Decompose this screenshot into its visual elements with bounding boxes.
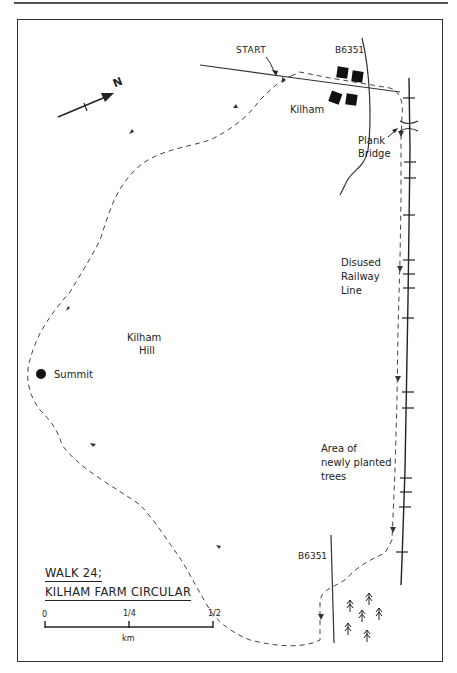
walk-title: WALK 24; xyxy=(45,566,102,582)
railway-label-3: Line xyxy=(341,284,362,297)
hill-label-2: Hill xyxy=(139,344,155,357)
scale-tick-quarter: 1/4 xyxy=(123,609,136,618)
plank-bridge-label-2: Bridge xyxy=(358,147,391,160)
hill-label-1: Kilham xyxy=(127,331,161,344)
road-b6351-bottom xyxy=(331,535,334,643)
village-label: Kilham xyxy=(290,103,324,116)
road-top xyxy=(200,65,400,92)
railway-line xyxy=(401,78,410,585)
summit-marker-icon xyxy=(36,369,46,379)
railway-ticks xyxy=(396,98,416,552)
north-arrow-icon xyxy=(58,93,114,117)
scale-bar xyxy=(45,621,213,628)
walking-route xyxy=(28,72,403,646)
plank-bridge-label-1: Plank xyxy=(358,134,385,147)
scale-tick-0: 0 xyxy=(42,610,47,619)
scale-unit: km xyxy=(122,634,134,643)
road-label-top: B6351 xyxy=(335,44,364,57)
route-arrow-icons xyxy=(66,77,404,620)
walk-subtitle: KILHAM FARM CIRCULAR xyxy=(45,585,191,601)
summit-label: Summit xyxy=(54,368,93,381)
start-label: START xyxy=(236,44,266,57)
railway-label-1: Disused xyxy=(341,256,381,269)
trees-label-2: newly planted xyxy=(321,456,392,469)
trees-label-1: Area of xyxy=(321,442,357,455)
road-label-bottom: B6351 xyxy=(298,550,327,563)
road-b6351-top xyxy=(340,38,370,195)
trees-label-3: trees xyxy=(321,470,346,483)
scale-tick-half: 1/2 xyxy=(208,609,221,618)
railway-label-2: Railway xyxy=(341,270,380,283)
tree-icons xyxy=(345,593,382,642)
